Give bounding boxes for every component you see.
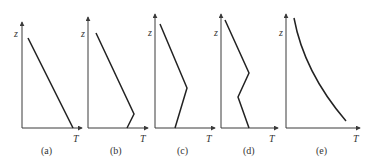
temperature-profile-figure: z T (a) z T (b) z T (c) z T (d) z T (e) [0, 0, 376, 168]
caption-b: (b) [110, 145, 122, 157]
temperature-profile-line [225, 20, 249, 128]
panel-a: z T (a) [13, 22, 82, 157]
temperature-profile-curve [294, 18, 346, 121]
panel-d: z T (d) [213, 14, 278, 157]
z-axis-label: z [278, 27, 283, 38]
caption-c: (c) [177, 145, 188, 157]
t-axis-label: T [206, 133, 213, 144]
t-axis-label: T [353, 133, 360, 144]
caption-e: (e) [316, 145, 327, 157]
temperature-profile-line [96, 33, 134, 128]
t-axis-label: T [269, 133, 276, 144]
caption-a: (a) [41, 145, 52, 157]
t-axis-label: T [140, 133, 147, 144]
temperature-profile-line [28, 38, 73, 128]
z-axis-label: z [13, 28, 18, 39]
panel-c: z T (c) [147, 14, 215, 157]
caption-d: (d) [243, 145, 255, 157]
z-axis-label: z [80, 28, 85, 39]
t-axis-label: T [73, 133, 80, 144]
panel-e: z T (e) [278, 14, 360, 157]
temperature-profile-line [160, 24, 187, 128]
panel-b: z T (b) [80, 17, 148, 157]
z-axis-label: z [213, 27, 218, 38]
z-axis-label: z [147, 27, 152, 38]
